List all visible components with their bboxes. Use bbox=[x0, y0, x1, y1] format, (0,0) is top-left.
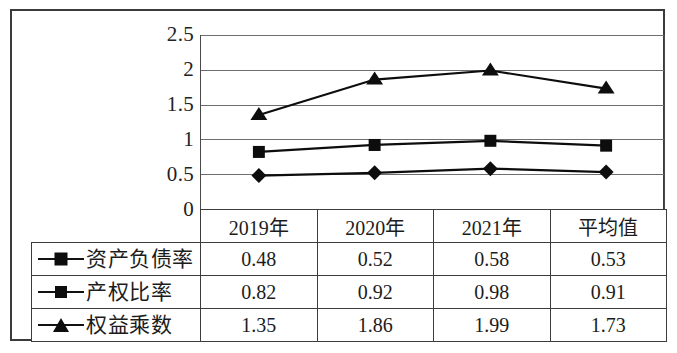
legend-row-equity-multiplier: 权益乘数 bbox=[32, 309, 201, 342]
legend-row-equity-ratio: 产权比率 bbox=[32, 276, 201, 309]
series-line bbox=[259, 141, 606, 152]
table-row: 权益乘数 1.35 1.86 1.99 1.73 bbox=[32, 309, 667, 342]
chart-frame: 2.5 2 1.5 1 0.5 0 2019年 2020年 bbox=[10, 9, 665, 341]
cell-equity-multiplier-2020: 1.86 bbox=[317, 309, 434, 342]
y-tick-label-2.5: 2.5 bbox=[128, 24, 194, 45]
series-plot bbox=[201, 35, 664, 209]
data-point-square bbox=[600, 140, 612, 152]
series-1 bbox=[251, 161, 613, 183]
y-axis-tick-labels: 2.5 2 1.5 1 0.5 0 bbox=[122, 35, 194, 209]
diamond-marker-icon bbox=[38, 249, 84, 269]
cell-debt-ratio-average: 0.53 bbox=[550, 243, 667, 276]
data-point-square bbox=[484, 135, 496, 147]
data-table: 2019年 2020年 2021年 平均值 资产负债率 0.48 0.52 bbox=[31, 209, 667, 342]
cell-equity-multiplier-2021: 1.99 bbox=[434, 309, 551, 342]
legend-label-debt-ratio: 资产负债率 bbox=[86, 249, 194, 270]
column-header-2021: 2021年 bbox=[434, 210, 551, 243]
cell-equity-multiplier-2019: 1.35 bbox=[201, 309, 318, 342]
legend-label-equity-multiplier: 权益乘数 bbox=[86, 315, 172, 336]
column-header-average: 平均值 bbox=[550, 210, 667, 243]
data-point-diamond bbox=[367, 165, 382, 180]
cell-equity-ratio-2021: 0.98 bbox=[434, 276, 551, 309]
series-2 bbox=[253, 135, 612, 158]
column-header-2020: 2020年 bbox=[317, 210, 434, 243]
cell-equity-ratio-2019: 0.82 bbox=[201, 276, 318, 309]
cell-equity-ratio-2020: 0.92 bbox=[317, 276, 434, 309]
cell-equity-multiplier-average: 1.73 bbox=[550, 309, 667, 342]
series-line bbox=[259, 70, 606, 115]
data-point-diamond bbox=[251, 168, 266, 183]
data-point-square bbox=[369, 139, 381, 151]
legend-label-equity-ratio: 产权比率 bbox=[86, 282, 172, 303]
header-legend-cell bbox=[32, 210, 201, 243]
series-line bbox=[259, 169, 606, 176]
y-tick-label-1: 1 bbox=[128, 129, 194, 150]
cell-equity-ratio-average: 0.91 bbox=[550, 276, 667, 309]
y-tick-label-0.5: 0.5 bbox=[128, 164, 194, 185]
y-tick-label-2: 2 bbox=[128, 59, 194, 80]
legend-row-debt-ratio: 资产负债率 bbox=[32, 243, 201, 276]
data-point-diamond bbox=[483, 161, 498, 176]
column-header-2019: 2019年 bbox=[201, 210, 318, 243]
table-row: 资产负债率 0.48 0.52 0.58 0.53 bbox=[32, 243, 667, 276]
cell-debt-ratio-2021: 0.58 bbox=[434, 243, 551, 276]
plot-area bbox=[200, 35, 665, 209]
square-marker-icon bbox=[38, 282, 84, 302]
table-header-row: 2019年 2020年 2021年 平均值 bbox=[32, 210, 667, 243]
y-tick-label-1.5: 1.5 bbox=[128, 94, 194, 115]
data-point-diamond bbox=[599, 165, 614, 180]
cell-debt-ratio-2019: 0.48 bbox=[201, 243, 318, 276]
data-point-triangle bbox=[482, 62, 499, 75]
triangle-marker-icon bbox=[38, 315, 84, 335]
table-row: 产权比率 0.82 0.92 0.98 0.91 bbox=[32, 276, 667, 309]
series-layer bbox=[250, 62, 614, 183]
data-point-square bbox=[253, 146, 265, 158]
series-3 bbox=[250, 62, 614, 120]
cell-debt-ratio-2020: 0.52 bbox=[317, 243, 434, 276]
